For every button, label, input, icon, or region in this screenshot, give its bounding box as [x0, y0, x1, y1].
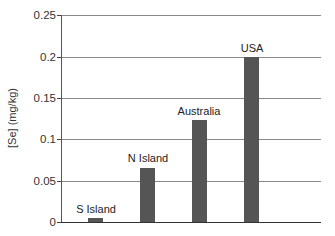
bar-chart: [Se] (mg/kg) 0 0.05 0.1 0.15 0.2 0.25 S … — [0, 0, 335, 236]
y-tick-0.15: 0.15 — [34, 92, 56, 104]
gridline-0.05 — [61, 181, 321, 182]
y-axis — [61, 15, 62, 223]
y-axis-label: [Se] (mg/kg) — [6, 88, 18, 148]
x-axis — [61, 222, 321, 223]
y-tick-0.05: 0.05 — [34, 175, 56, 187]
bar-label-n-island: N Island — [128, 152, 168, 164]
gridline-0.25 — [61, 15, 321, 16]
bar-usa — [244, 57, 259, 222]
gridline-0.15 — [61, 98, 321, 99]
y-tick-0.25: 0.25 — [34, 9, 56, 21]
bar-label-australia: Australia — [178, 105, 221, 117]
gridline-0.2 — [61, 57, 321, 58]
gridline-0.1 — [61, 139, 321, 140]
y-tick-0.2: 0.2 — [40, 51, 56, 63]
y-tick-0: 0 — [50, 216, 56, 228]
bar-n-island — [140, 168, 155, 222]
bar-australia — [192, 120, 207, 222]
bar-s-island — [88, 218, 103, 222]
bar-label-usa: USA — [241, 42, 264, 54]
y-tick-0.1: 0.1 — [40, 133, 56, 145]
bar-label-s-island: S Island — [76, 203, 116, 215]
